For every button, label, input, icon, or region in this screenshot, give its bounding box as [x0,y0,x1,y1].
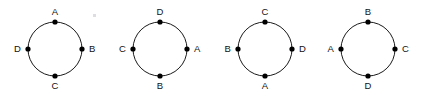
node-label-b: B [89,44,96,54]
circle-group-2: DABC [107,0,213,109]
node-dot-c [130,46,135,51]
node-dot-b [365,19,370,24]
node-label-c: C [402,44,409,54]
node-label-d: D [299,44,306,54]
circle-group-3: CDAB [212,0,318,109]
node-dot-b [157,73,162,78]
circle-ring [28,22,82,76]
node-dot-a [338,46,343,51]
node-dot-c [392,46,397,51]
node-label-b: B [224,44,231,54]
node-dot-d [157,19,162,24]
circle-diagram-figure: ABCDDABCCDABBCDA [0,0,423,109]
circle-ring [238,22,292,76]
node-dot-a [184,46,189,51]
node-label-c: C [261,7,268,17]
node-dot-a [52,19,57,24]
node-dot-d [25,46,30,51]
scan-artifact-speck-1 [93,14,96,17]
node-label-d: D [156,7,163,17]
circle-ring [133,22,187,76]
circle-ring [341,22,395,76]
node-dot-b [79,46,84,51]
node-dot-b [235,46,240,51]
node-label-c: C [51,81,58,91]
node-label-b: B [157,81,164,91]
node-dot-d [289,46,294,51]
node-label-a: A [262,81,269,91]
node-dot-c [262,19,267,24]
node-label-b: B [365,7,372,17]
node-label-d: D [364,81,371,91]
node-label-c: C [119,44,126,54]
node-label-a: A [194,44,201,54]
node-dot-d [365,73,370,78]
node-dot-a [262,73,267,78]
node-label-a: A [327,44,334,54]
circle-group-4: BCDA [315,0,421,109]
node-label-a: A [52,7,59,17]
node-label-d: D [14,44,21,54]
node-dot-c [52,73,57,78]
